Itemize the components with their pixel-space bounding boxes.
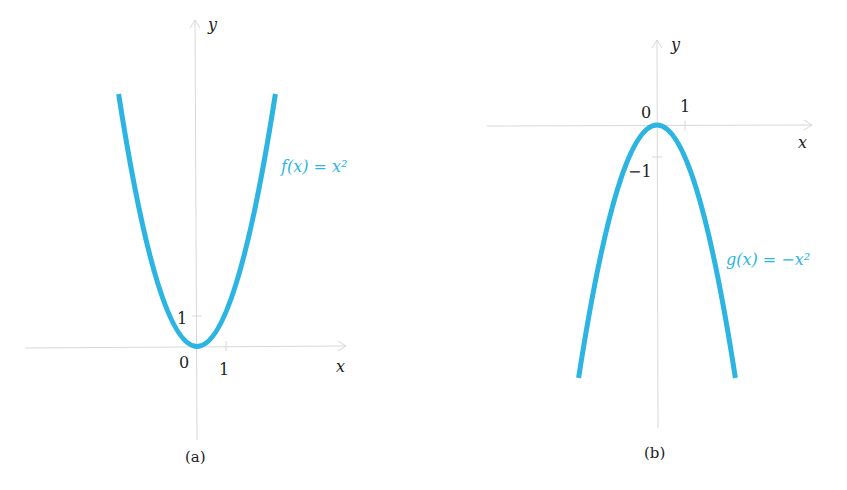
x-axis — [25, 346, 346, 348]
y-axis — [657, 40, 658, 428]
caption-a: (a) — [185, 448, 206, 466]
x-axis-label: x — [336, 357, 345, 376]
x-tick-label: 1 — [219, 360, 229, 379]
caption-b: (b) — [644, 444, 665, 462]
origin-label: 0 — [179, 353, 189, 372]
y-axis-label: y — [207, 15, 218, 34]
panel-b: y x 0 1 −1 g(x) = −x² (b) — [487, 35, 812, 462]
function-label-f: f(x) = x² — [280, 157, 347, 176]
function-label-g: g(x) = −x² — [726, 250, 810, 269]
panel-a: y x 0 1 1 f(x) = x² (a) — [25, 15, 347, 466]
x-tick-label: 1 — [680, 97, 690, 116]
y-tick-label: 1 — [177, 309, 187, 328]
x-axis-label: x — [798, 133, 807, 152]
curve-f — [119, 94, 276, 347]
y-axis-label: y — [670, 35, 681, 54]
figure: y x 0 1 1 f(x) = x² (a) y x 0 1 −1 g(x) … — [0, 0, 847, 490]
origin-label: 0 — [641, 103, 651, 122]
y-axis — [195, 20, 197, 440]
y-tick-label: −1 — [628, 162, 652, 181]
